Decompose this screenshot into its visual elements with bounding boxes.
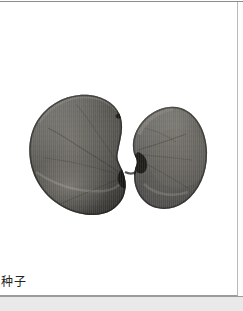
figure-area: [0, 6, 236, 268]
seed-specimen-photograph: [26, 88, 210, 224]
document-page: 种子: [0, 0, 243, 311]
page-card: 种子: [0, 2, 238, 296]
page-bottom-margin: [0, 297, 243, 311]
seed-photo-svg: [26, 88, 210, 224]
figure-caption: 种子: [0, 275, 26, 289]
figure-caption-row: 种子: [0, 268, 236, 296]
